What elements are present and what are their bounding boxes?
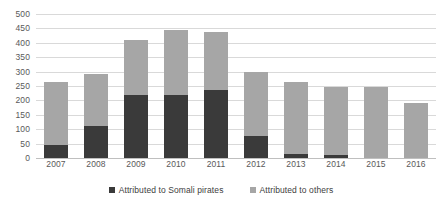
legend-item[interactable]: Attributed to others bbox=[250, 186, 334, 195]
y-tick-label: 200 bbox=[16, 96, 30, 105]
bar-segment-somali-pirates[interactable] bbox=[124, 95, 148, 158]
bars-layer bbox=[36, 14, 436, 158]
x-tick-label: 2011 bbox=[196, 160, 236, 169]
x-tick-label: 2007 bbox=[36, 160, 76, 169]
y-tick-label: 50 bbox=[20, 139, 30, 148]
x-tick-label: 2009 bbox=[116, 160, 156, 169]
bar-stack[interactable] bbox=[284, 82, 308, 158]
bar-segment-somali-pirates[interactable] bbox=[324, 155, 348, 158]
bar-segment-somali-pirates[interactable] bbox=[284, 154, 308, 158]
bar-segment-somali-pirates[interactable] bbox=[164, 95, 188, 158]
y-tick-label: 400 bbox=[16, 39, 30, 48]
bar-segment-somali-pirates[interactable] bbox=[84, 126, 108, 158]
bar-slot bbox=[76, 14, 116, 158]
bar-slot bbox=[236, 14, 276, 158]
bar-segment-others[interactable] bbox=[284, 82, 308, 154]
x-tick-label: 2010 bbox=[156, 160, 196, 169]
bar-slot bbox=[36, 14, 76, 158]
x-tick-label: 2012 bbox=[236, 160, 276, 169]
y-tick-label: 150 bbox=[16, 111, 30, 120]
x-tick-label: 2014 bbox=[316, 160, 356, 169]
y-axis: 500450400350300250200150100500 bbox=[0, 0, 34, 176]
legend-label: Attributed to Somali pirates bbox=[119, 186, 224, 195]
bar-segment-others[interactable] bbox=[124, 40, 148, 95]
bar-segment-others[interactable] bbox=[44, 82, 68, 144]
bar-stack[interactable] bbox=[324, 87, 348, 158]
bar-segment-others[interactable] bbox=[244, 72, 268, 136]
stacked-bar-chart: 500450400350300250200150100500 200720082… bbox=[0, 0, 442, 204]
x-tick-label: 2015 bbox=[356, 160, 396, 169]
bar-segment-others[interactable] bbox=[404, 103, 428, 158]
legend-swatch-icon bbox=[250, 187, 256, 193]
bar-stack[interactable] bbox=[364, 87, 388, 158]
x-tick-label: 2008 bbox=[76, 160, 116, 169]
bar-segment-others[interactable] bbox=[364, 87, 388, 158]
bar-stack[interactable] bbox=[244, 72, 268, 158]
bar-stack[interactable] bbox=[124, 40, 148, 158]
plot-area bbox=[36, 14, 436, 158]
bar-slot bbox=[396, 14, 436, 158]
x-axis: 2007200820092010201120122013201420152016 bbox=[36, 160, 436, 174]
bar-stack[interactable] bbox=[204, 32, 228, 158]
bar-segment-somali-pirates[interactable] bbox=[204, 90, 228, 158]
bar-slot bbox=[196, 14, 236, 158]
y-tick-label: 100 bbox=[16, 125, 30, 134]
y-tick-label: 250 bbox=[16, 82, 30, 91]
legend-label: Attributed to others bbox=[260, 186, 334, 195]
chart-legend: Attributed to Somali piratesAttributed t… bbox=[0, 182, 442, 198]
bar-segment-somali-pirates[interactable] bbox=[44, 145, 68, 158]
legend-swatch-icon bbox=[109, 187, 115, 193]
x-tick-label: 2016 bbox=[396, 160, 436, 169]
bar-segment-others[interactable] bbox=[84, 74, 108, 126]
y-tick-label: 300 bbox=[16, 67, 30, 76]
bar-slot bbox=[116, 14, 156, 158]
bar-stack[interactable] bbox=[404, 103, 428, 158]
bar-stack[interactable] bbox=[84, 74, 108, 158]
bar-slot bbox=[316, 14, 356, 158]
plot-wrapper: 500450400350300250200150100500 bbox=[0, 0, 442, 176]
bar-segment-others[interactable] bbox=[204, 32, 228, 90]
bar-segment-others[interactable] bbox=[164, 30, 188, 95]
y-tick-label: 500 bbox=[16, 10, 30, 19]
y-tick-label: 0 bbox=[25, 154, 30, 163]
bar-segment-somali-pirates[interactable] bbox=[244, 136, 268, 158]
bar-slot bbox=[276, 14, 316, 158]
bar-stack[interactable] bbox=[164, 30, 188, 158]
legend-item[interactable]: Attributed to Somali pirates bbox=[109, 186, 224, 195]
y-tick-label: 450 bbox=[16, 24, 30, 33]
x-tick-label: 2013 bbox=[276, 160, 316, 169]
bar-slot bbox=[156, 14, 196, 158]
bar-stack[interactable] bbox=[44, 82, 68, 158]
bar-slot bbox=[356, 14, 396, 158]
bar-segment-others[interactable] bbox=[324, 87, 348, 154]
y-tick-label: 350 bbox=[16, 53, 30, 62]
